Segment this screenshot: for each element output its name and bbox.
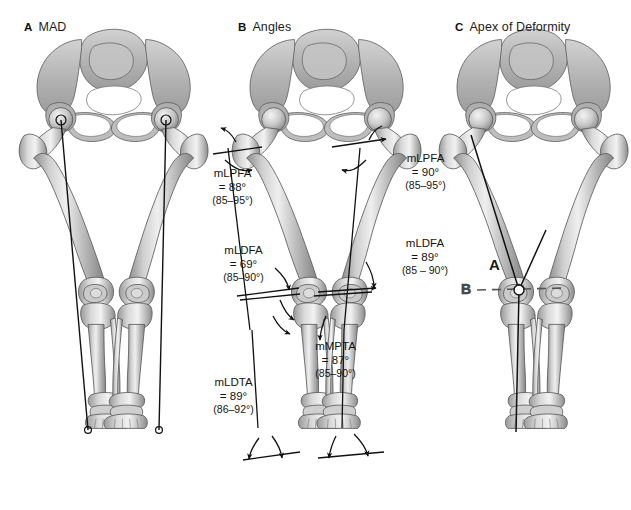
mldfa-left-name: mLDFA xyxy=(224,244,262,256)
mlpfa-right-value: = 90° xyxy=(378,166,473,180)
panel-letter-a: A xyxy=(24,21,32,33)
mldfa-right-value: = 89° xyxy=(375,251,475,265)
mldta-name: mLDTA xyxy=(214,376,252,388)
mldfa-left-range: (85–90°) xyxy=(196,271,291,285)
panel-title-a: AMAD xyxy=(24,20,66,34)
mmpta-range: (85–90°) xyxy=(288,367,383,381)
panel-title-c-text: Apex of Deformity xyxy=(469,20,570,34)
panel-title-b: BAngles xyxy=(238,20,291,34)
apex-label-b: B xyxy=(461,281,471,297)
panel-title-a-text: MAD xyxy=(38,20,66,34)
apex-label-a: A xyxy=(489,256,500,273)
panel-letter-b: B xyxy=(238,21,246,33)
lower-limb-alignment-figure xyxy=(0,0,631,510)
mmpta-name: mMPTA xyxy=(315,340,356,352)
annotation-mldfa-left: mLDFA = 69° (85–90°) xyxy=(196,244,291,285)
mlpfa-left-name: mLPFA xyxy=(214,167,252,179)
mldta-range: (86–92°) xyxy=(186,403,281,417)
mlpfa-right-name: mLPFA xyxy=(407,152,445,164)
panel-title-b-text: Angles xyxy=(252,20,291,34)
mldfa-right-name: mLDFA xyxy=(406,237,444,249)
mldta-value: = 89° xyxy=(186,390,281,404)
mlpfa-right-range: (85–95°) xyxy=(378,179,473,193)
mlpfa-left-value: = 88° xyxy=(185,181,280,195)
mlpfa-left-range: (85–95°) xyxy=(185,194,280,208)
annotation-mlpfa-right: mLPFA = 90° (85–95°) xyxy=(378,152,473,193)
apex-point-marker xyxy=(514,285,524,295)
annotation-mlpfa-left: mLPFA = 88° (85–95°) xyxy=(185,167,280,208)
mldfa-right-range: (85 – 90°) xyxy=(375,264,475,278)
panel-letter-c: C xyxy=(455,21,463,33)
annotation-mmpta: mMPTA = 87° (85–90°) xyxy=(288,340,383,381)
annotation-mldfa-right: mLDFA = 89° (85 – 90°) xyxy=(375,237,475,278)
mldfa-left-value: = 69° xyxy=(196,258,291,272)
panel-title-c: CApex of Deformity xyxy=(455,20,570,34)
annotation-mldta: mLDTA = 89° (86–92°) xyxy=(186,376,281,417)
mmpta-value: = 87° xyxy=(288,354,383,368)
